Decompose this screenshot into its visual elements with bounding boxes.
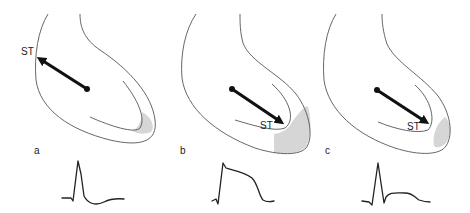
panel-label: c [325,145,330,156]
st-vector-arrow [232,89,281,122]
ecg-trace-st-depression [62,161,124,204]
injury-region-transmural [274,106,310,153]
panel-label: a [34,145,40,156]
ecg-trace-mild-st-elevation [362,163,430,205]
epicardial-outline [36,14,156,143]
st-vector-arrow [40,59,87,89]
ecg-trace-st-elevation [212,163,274,204]
endocardial-outline [90,81,142,130]
panel-a: ST a [21,14,155,204]
ventricle-st-vector-figure: ST a ST b ST c [0,0,470,213]
st-vector-label: ST [21,46,34,57]
panel-label: b [180,145,186,156]
epicardial-outline [324,14,451,153]
panel-c: ST c [324,14,451,205]
st-vector-label: ST [260,120,273,131]
vector-origin-dot [229,86,235,92]
st-vector-label: ST [407,121,420,132]
vector-origin-dot [84,86,90,92]
vector-origin-dot [374,87,380,93]
panel-b: ST b [180,14,310,204]
st-vector-arrow [377,90,426,122]
